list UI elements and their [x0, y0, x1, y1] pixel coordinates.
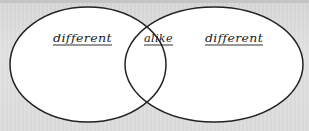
left-set-label: different [53, 32, 112, 45]
intersection-label: alike [144, 32, 173, 45]
right-set-label: different [205, 32, 263, 45]
venn-diagram: different alike different [0, 0, 309, 131]
